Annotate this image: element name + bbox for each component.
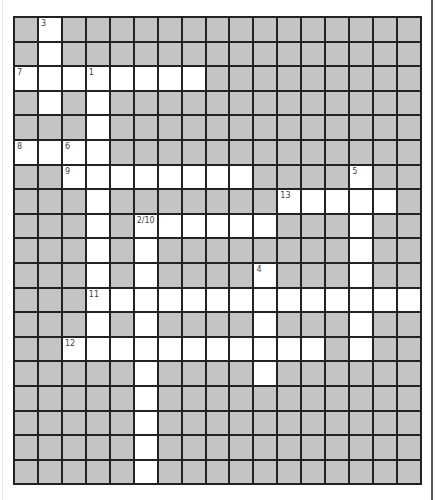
crossword-cell-open[interactable]: [230, 338, 254, 363]
crossword-cell-open[interactable]: 5: [350, 166, 374, 191]
crossword-cell-open[interactable]: [350, 264, 374, 289]
crossword-cell-open[interactable]: [87, 141, 111, 166]
crossword-cell-open[interactable]: [159, 166, 183, 191]
crossword-cell-open[interactable]: [183, 67, 207, 92]
crossword-cell-block: [183, 141, 207, 166]
crossword-cell-open[interactable]: 1: [87, 67, 111, 92]
crossword-cell-open[interactable]: [87, 190, 111, 215]
crossword-cell-open[interactable]: 12: [63, 338, 87, 363]
crossword-cell-open[interactable]: 6: [63, 141, 87, 166]
crossword-cell-open[interactable]: [350, 215, 374, 240]
crossword-cell-open[interactable]: [111, 338, 135, 363]
crossword-cell-open[interactable]: 4: [254, 264, 278, 289]
crossword-cell-open[interactable]: [350, 190, 374, 215]
clue-number: 12: [65, 339, 75, 348]
crossword-cell-open[interactable]: [159, 289, 183, 314]
crossword-cell-open[interactable]: [350, 239, 374, 264]
crossword-cell-open[interactable]: 8: [15, 141, 39, 166]
crossword-cell-open[interactable]: [87, 116, 111, 141]
crossword-cell-open[interactable]: [326, 190, 350, 215]
crossword-cell-open[interactable]: [135, 67, 159, 92]
crossword-cell-open[interactable]: [87, 166, 111, 191]
crossword-cell-block: [183, 436, 207, 461]
crossword-cell-block: [278, 43, 302, 68]
crossword-cell-open[interactable]: [183, 338, 207, 363]
clue-number: 6: [65, 142, 70, 151]
crossword-cell-open[interactable]: [111, 67, 135, 92]
crossword-cell-open[interactable]: [135, 436, 159, 461]
crossword-cell-open[interactable]: [254, 215, 278, 240]
crossword-cell-block: [254, 92, 278, 117]
crossword-cell-open[interactable]: [398, 289, 422, 314]
crossword-cell-open[interactable]: [135, 239, 159, 264]
crossword-cell-open[interactable]: [135, 362, 159, 387]
crossword-cell-open[interactable]: [302, 190, 326, 215]
crossword-cell-open[interactable]: [350, 289, 374, 314]
crossword-cell-open[interactable]: [87, 313, 111, 338]
crossword-cell-open[interactable]: [254, 362, 278, 387]
crossword-cell-open[interactable]: [159, 215, 183, 240]
crossword-cell-open[interactable]: [87, 92, 111, 117]
crossword-cell-open[interactable]: [254, 338, 278, 363]
crossword-cell-block: [374, 387, 398, 412]
crossword-cell-open[interactable]: 13: [278, 190, 302, 215]
crossword-cell-open[interactable]: 7: [15, 67, 39, 92]
crossword-cell-open[interactable]: 3: [39, 18, 63, 43]
crossword-cell-open[interactable]: [39, 43, 63, 68]
crossword-cell-open[interactable]: 11: [87, 289, 111, 314]
crossword-cell-open[interactable]: [350, 338, 374, 363]
crossword-cell-block: [374, 141, 398, 166]
crossword-cell-open[interactable]: [135, 264, 159, 289]
crossword-cell-block: [302, 116, 326, 141]
crossword-cell-open[interactable]: [159, 67, 183, 92]
crossword-cell-open[interactable]: [207, 166, 231, 191]
crossword-cell-open[interactable]: [230, 215, 254, 240]
crossword-cell-open[interactable]: [254, 313, 278, 338]
crossword-cell-open[interactable]: [111, 166, 135, 191]
crossword-cell-open[interactable]: [374, 190, 398, 215]
crossword-cell-open[interactable]: [230, 166, 254, 191]
crossword-cell-open[interactable]: [302, 289, 326, 314]
crossword-cell-open[interactable]: [87, 338, 111, 363]
crossword-cell-open[interactable]: [135, 338, 159, 363]
crossword-cell-block: [87, 362, 111, 387]
crossword-cell-open[interactable]: [374, 289, 398, 314]
crossword-cell-open[interactable]: [63, 67, 87, 92]
crossword-cell-open[interactable]: [39, 92, 63, 117]
crossword-cell-open[interactable]: [135, 166, 159, 191]
crossword-cell-open[interactable]: [135, 289, 159, 314]
crossword-cell-open[interactable]: 2/10: [135, 215, 159, 240]
crossword-cell-open[interactable]: [302, 338, 326, 363]
crossword-cell-open[interactable]: [111, 289, 135, 314]
crossword-cell-block: [183, 264, 207, 289]
crossword-cell-open[interactable]: [326, 289, 350, 314]
crossword-cell-block: [254, 116, 278, 141]
crossword-cell-open[interactable]: [87, 239, 111, 264]
crossword-cell-block: [15, 264, 39, 289]
crossword-cell-open[interactable]: [278, 289, 302, 314]
crossword-cell-open[interactable]: [39, 67, 63, 92]
crossword-cell-open[interactable]: [183, 289, 207, 314]
crossword-cell-open[interactable]: [135, 412, 159, 437]
crossword-cell-open[interactable]: [207, 289, 231, 314]
crossword-cell-block: [278, 18, 302, 43]
crossword-cell-open[interactable]: [207, 215, 231, 240]
crossword-cell-open[interactable]: [87, 215, 111, 240]
crossword-cell-open[interactable]: [183, 215, 207, 240]
crossword-cell-open[interactable]: [230, 289, 254, 314]
crossword-cell-block: [350, 116, 374, 141]
crossword-cell-open[interactable]: [87, 264, 111, 289]
crossword-cell-open[interactable]: [183, 166, 207, 191]
crossword-cell-open[interactable]: [135, 313, 159, 338]
crossword-cell-open[interactable]: [39, 141, 63, 166]
crossword-cell-open[interactable]: [135, 461, 159, 486]
crossword-cell-open[interactable]: [254, 289, 278, 314]
crossword-cell-block: [278, 313, 302, 338]
crossword-cell-open[interactable]: [135, 387, 159, 412]
crossword-cell-open[interactable]: 9: [63, 166, 87, 191]
crossword-cell-open[interactable]: [278, 338, 302, 363]
crossword-cell-open[interactable]: [159, 338, 183, 363]
crossword-cell-open[interactable]: [350, 313, 374, 338]
crossword-cell-block: [183, 387, 207, 412]
crossword-cell-open[interactable]: [207, 338, 231, 363]
